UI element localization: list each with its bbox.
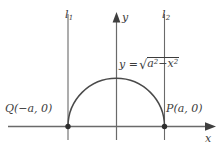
y-axis-arrowhead <box>113 12 121 23</box>
x-axis-arrowhead <box>205 122 216 130</box>
y-axis-label: y <box>122 12 128 23</box>
label-line-l1-letter: l <box>65 8 69 21</box>
radicand-x-exponent: 2 <box>174 58 178 66</box>
label-line-l1-subscript: 1 <box>69 14 74 22</box>
math-figure: l1 l2 y x Q(−a, 0) P(a, 0) y =√a2−x2 <box>0 0 222 153</box>
radical-sign: √ <box>139 57 147 72</box>
label-line-l1: l1 <box>65 9 73 22</box>
point-label-q: Q(−a, 0) <box>5 103 52 114</box>
radicand: a2−x2 <box>147 57 179 69</box>
curve-equation-label: y =√a2−x2 <box>119 57 179 70</box>
x-axis-label: x <box>205 133 211 144</box>
point-marker-p <box>162 124 167 129</box>
point-label-p: P(a, 0) <box>166 103 203 114</box>
label-line-l2: l2 <box>162 9 170 22</box>
label-line-l2-letter: l <box>162 8 166 21</box>
point-marker-q <box>65 124 70 129</box>
figure-canvas <box>0 0 222 153</box>
radical-expression: √a2−x2 <box>138 57 179 70</box>
label-line-l2-subscript: 2 <box>166 14 171 22</box>
equation-lhs: y = <box>119 58 138 71</box>
